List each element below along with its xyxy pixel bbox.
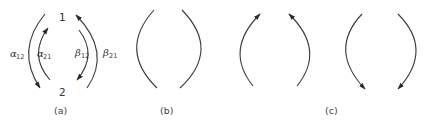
panel-a: 1 2 α 12 α 21 β 12 β 21 (a) (10, 11, 117, 116)
svg-text:12: 12 (81, 52, 89, 60)
right-arc-icon (180, 10, 201, 88)
panel-b: (b) (137, 10, 201, 116)
beta21-label: β 21 (102, 47, 117, 60)
svg-text:21: 21 (43, 53, 51, 61)
beta12-label: β 12 (74, 47, 89, 60)
node-2-label: 2 (59, 86, 66, 98)
svg-text:β: β (102, 47, 109, 58)
svg-text:12: 12 (16, 53, 24, 61)
c-right-down-arrow-icon (398, 14, 416, 89)
c-left-up-arrow-icon (240, 14, 260, 86)
c-right-up-arrow-icon (289, 14, 310, 86)
svg-text:β: β (74, 47, 81, 58)
panel-c: (c) (240, 14, 416, 116)
svg-text:21: 21 (109, 52, 117, 60)
transition-diagram: 1 2 α 12 α 21 β 12 β 21 (a) (b) (0, 0, 432, 120)
alpha12-label: α 12 (10, 48, 24, 61)
c-left-down-arrow-icon (346, 14, 365, 89)
left-arc-icon (137, 10, 157, 88)
caption-c: (c) (325, 105, 338, 116)
node-1-label: 1 (59, 11, 66, 23)
caption-a: (a) (54, 105, 67, 116)
caption-b: (b) (160, 105, 173, 116)
